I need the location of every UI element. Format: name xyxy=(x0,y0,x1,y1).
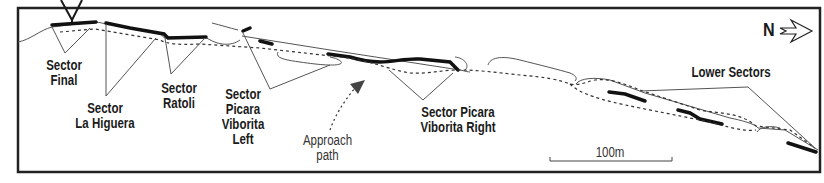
sector-la-higuera-label: Sector La Higuera xyxy=(68,101,142,131)
wall-small-1 xyxy=(243,28,250,31)
north-arrow-icon xyxy=(780,20,812,42)
scale-bar-label: 100m xyxy=(585,145,634,160)
diagram-frame xyxy=(18,8,820,172)
wall-small-2 xyxy=(260,41,272,44)
wall-final xyxy=(52,22,96,25)
sector-picara-viborita-right-label: Sector Picara Viborita Right xyxy=(409,105,507,135)
sector-ratoli-label: Sector Ratoli xyxy=(154,81,203,111)
wall-la-higuera-ratoli xyxy=(106,23,206,38)
cliff-line-mid xyxy=(242,36,470,72)
topo-diagram xyxy=(0,0,824,183)
approach-path-label: Approach path xyxy=(297,133,359,163)
lower-sectors-label: Lower Sectors xyxy=(686,65,776,80)
wall-picara-viborita-right xyxy=(328,54,458,70)
sector-final-label: Sector Final xyxy=(39,58,88,88)
wall-lower-3 xyxy=(788,143,816,152)
entry-marker-icon xyxy=(61,0,82,24)
sector-picara-viborita-left-label: Sector Picara Viborita Left xyxy=(214,87,271,147)
wall-lower-1 xyxy=(609,92,645,101)
north-label: N xyxy=(763,19,775,41)
approach-arrow xyxy=(330,80,365,130)
